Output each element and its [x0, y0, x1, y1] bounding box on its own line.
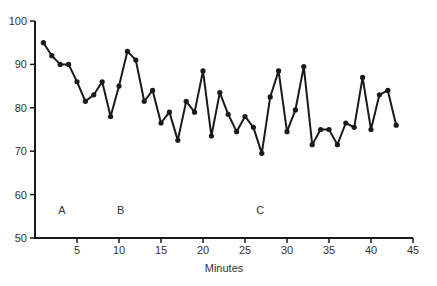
data-point [242, 114, 247, 119]
y-axis-ticks: 5060708090100 [9, 15, 35, 244]
data-point [268, 94, 273, 99]
x-tick-label: 30 [281, 244, 293, 256]
data-point [200, 68, 205, 73]
data-point [217, 90, 222, 95]
line-chart: 5060708090100 51015202530354045 ABC Minu… [0, 0, 437, 286]
data-point [91, 92, 96, 97]
data-point [58, 62, 63, 67]
data-point [167, 110, 172, 115]
x-axis-label: Minutes [205, 262, 244, 274]
data-point [394, 123, 399, 128]
y-tick-label: 50 [15, 232, 27, 244]
data-point [66, 62, 71, 67]
y-tick-label: 100 [9, 15, 27, 27]
x-tick-label: 5 [74, 244, 80, 256]
data-point [293, 107, 298, 112]
data-point [310, 142, 315, 147]
data-point [49, 53, 54, 58]
y-tick-label: 80 [15, 102, 27, 114]
data-point [116, 84, 121, 89]
data-point [335, 142, 340, 147]
x-tick-label: 40 [365, 244, 377, 256]
data-point [377, 92, 382, 97]
data-point [226, 112, 231, 117]
data-point [184, 99, 189, 104]
data-point [318, 127, 323, 132]
data-point [301, 64, 306, 69]
data-point [175, 138, 180, 143]
annotation-label: C [256, 204, 264, 216]
data-point [209, 133, 214, 138]
y-tick-label: 70 [15, 145, 27, 157]
data-point [343, 120, 348, 125]
data-point [326, 127, 331, 132]
data-point [368, 127, 373, 132]
data-point [108, 114, 113, 119]
data-point [276, 68, 281, 73]
data-point [125, 49, 130, 54]
axes [34, 21, 413, 238]
x-tick-label: 45 [407, 244, 419, 256]
x-axis-ticks: 51015202530354045 [74, 238, 419, 256]
data-point [284, 129, 289, 134]
data-point [74, 79, 79, 84]
y-tick-label: 60 [15, 189, 27, 201]
data-line [43, 43, 396, 154]
annotations: ABC [58, 204, 264, 216]
data-point [259, 151, 264, 156]
data-point [158, 120, 163, 125]
x-tick-label: 35 [323, 244, 335, 256]
y-tick-label: 90 [15, 58, 27, 70]
data-point [142, 99, 147, 104]
data-points [41, 40, 399, 156]
annotation-label: A [58, 204, 66, 216]
data-point [192, 110, 197, 115]
data-point [41, 40, 46, 45]
data-point [234, 129, 239, 134]
data-point [251, 125, 256, 130]
data-point [385, 88, 390, 93]
x-tick-label: 25 [239, 244, 251, 256]
x-tick-label: 20 [197, 244, 209, 256]
data-point [150, 88, 155, 93]
data-point [83, 99, 88, 104]
annotation-label: B [117, 204, 124, 216]
data-point [100, 79, 105, 84]
data-point [352, 125, 357, 130]
data-point [133, 57, 138, 62]
x-tick-label: 15 [155, 244, 167, 256]
x-tick-label: 10 [113, 244, 125, 256]
data-point [360, 75, 365, 80]
